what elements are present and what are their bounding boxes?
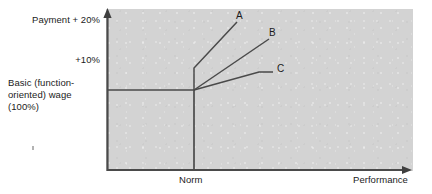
y-axis-base-label: Basic (function- oriented) wage (100%) xyxy=(8,77,74,114)
series-label-b: B xyxy=(269,27,276,39)
series-line-c xyxy=(194,72,273,90)
x-axis-norm-tick-label: Norm xyxy=(179,174,202,186)
series-line-b xyxy=(194,39,269,90)
y-axis-mid-label: +10% xyxy=(75,54,100,66)
y-axis-top-label: Payment + 20% xyxy=(32,14,100,26)
x-axis xyxy=(107,166,412,174)
x-axis-title: Performance xyxy=(353,174,408,186)
y-axis-arrowhead xyxy=(103,8,111,18)
x-axis-arrowhead xyxy=(402,166,412,174)
series-label-c: C xyxy=(277,63,284,75)
performance-pay-figure: Payment + 20% +10% Basic (function- orie… xyxy=(0,0,432,194)
series-label-a: A xyxy=(236,10,243,22)
